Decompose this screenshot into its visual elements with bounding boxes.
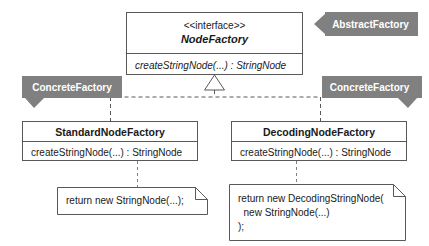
- interface-header: <<interface>> NodeFactory: [127, 13, 302, 53]
- interface-stereotype: <<interface>>: [127, 20, 302, 32]
- interface-name: NodeFactory: [127, 32, 302, 46]
- standardnodefactory-header: StandardNodeFactory: [23, 122, 197, 141]
- note-decodingnodefactory-line-2: new StringNode(...): [238, 206, 330, 220]
- note-decodingnodefactory-line-1: return new DecodingStringNode(: [238, 192, 384, 206]
- class-box-standardnodefactory[interactable]: StandardNodeFactory createStringNode(...…: [22, 121, 198, 161]
- note-decodingnodefactory[interactable]: return new DecodingStringNode( new Strin…: [229, 184, 406, 241]
- standardnodefactory-name: StandardNodeFactory: [55, 126, 165, 138]
- note-standardnodefactory[interactable]: return new StringNode(...);: [57, 187, 208, 215]
- uml-class-diagram: <<interface>> NodeFactory createStringNo…: [0, 0, 429, 246]
- realization-triangle: [205, 75, 225, 90]
- standardnodefactory-operation: createStringNode(...) : StringNode: [31, 147, 182, 158]
- note-standardnodefactory-text: return new StringNode(...);: [66, 194, 184, 208]
- interface-box-nodefactory[interactable]: <<interface>> NodeFactory createStringNo…: [126, 12, 303, 75]
- role-label-concretefactory-right-text: ConcreteFactory: [330, 82, 409, 93]
- role-label-concretefactory-left: ConcreteFactory: [22, 76, 122, 108]
- role-label-concretefactory-left-text: ConcreteFactory: [32, 82, 111, 93]
- decodingnodefactory-operations: createStringNode(...) : StringNode: [232, 142, 406, 162]
- interface-operations: createStringNode(...) : StringNode: [127, 54, 302, 76]
- decodingnodefactory-header: DecodingNodeFactory: [232, 122, 406, 141]
- decodingnodefactory-name: DecodingNodeFactory: [263, 126, 375, 138]
- role-label-abstractfactory: AbstractFactory: [314, 12, 418, 36]
- note-decodingnodefactory-line-3: );: [238, 220, 244, 234]
- interface-operation: createStringNode(...) : StringNode: [135, 60, 286, 71]
- decodingnodefactory-operation: createStringNode(...) : StringNode: [240, 147, 391, 158]
- role-label-concretefactory-right: ConcreteFactory: [322, 76, 422, 108]
- role-label-abstractfactory-text: AbstractFactory: [332, 19, 409, 30]
- class-box-decodingnodefactory[interactable]: DecodingNodeFactory createStringNode(...…: [231, 121, 407, 161]
- standardnodefactory-operations: createStringNode(...) : StringNode: [23, 142, 197, 162]
